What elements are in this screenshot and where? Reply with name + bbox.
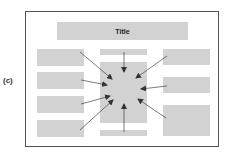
arrow-icon bbox=[81, 80, 107, 85]
arrow-icon bbox=[136, 56, 167, 78]
arrow-icon bbox=[80, 100, 113, 130]
arrow-icon bbox=[141, 86, 167, 89]
arrows-layer bbox=[0, 0, 225, 156]
arrow-icon bbox=[80, 52, 112, 79]
arrow-icon bbox=[138, 99, 166, 118]
arrow-icon bbox=[81, 96, 110, 104]
